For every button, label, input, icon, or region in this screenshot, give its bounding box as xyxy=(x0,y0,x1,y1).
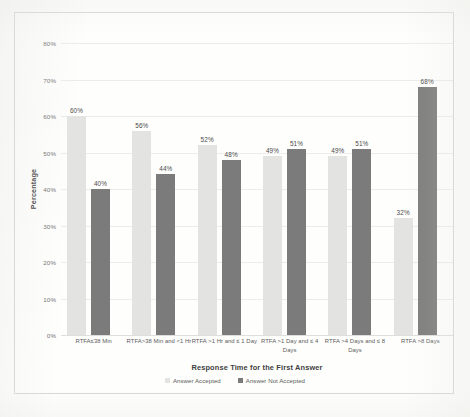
bar-answer-not-accepted[interactable]: 44% xyxy=(156,174,175,335)
bar-answer-not-accepted[interactable]: 68% xyxy=(418,87,437,335)
bar-group: 32%68% xyxy=(388,43,453,335)
y-axis-tick-label: 40% xyxy=(43,186,56,193)
bar-value-label: 68% xyxy=(421,78,434,85)
bar-value-label: 48% xyxy=(225,151,238,158)
legend-item[interactable]: Answer Not Accepted xyxy=(238,377,305,384)
bar-value-label: 49% xyxy=(331,147,344,154)
legend-item[interactable]: Answer Accepted xyxy=(165,377,221,384)
legend-swatch-icon xyxy=(165,378,170,383)
chart-figure: Percentage 80%70%60%50%40%30%20%10%0% 60… xyxy=(0,0,470,417)
bar-answer-accepted[interactable]: 32% xyxy=(394,218,413,335)
bar-answer-not-accepted[interactable]: 48% xyxy=(222,160,241,335)
bar-group: 60%40% xyxy=(61,43,126,335)
y-axis-tick-label: 30% xyxy=(43,222,56,229)
y-axis-tick-label: 60% xyxy=(43,113,56,120)
x-axis-tick-labels: RTFA≤38 MinRTFA>38 Min and <1 HrRTFA >1 … xyxy=(61,337,453,363)
x-axis-title: Response Time for the First Answer xyxy=(61,363,453,372)
x-axis-tick-label: RTFA >1 Day and ≤ 4 Days xyxy=(257,337,322,354)
chart-legend: Answer AcceptedAnswer Not Accepted xyxy=(15,377,455,384)
bar-group: 52%48% xyxy=(192,43,257,335)
gridline xyxy=(61,335,453,336)
x-axis-tick-label: RTFA >8 Days xyxy=(388,337,453,346)
chart-plot-frame: Percentage 80%70%60%50%40%30%20%10%0% 60… xyxy=(14,12,454,394)
bar-value-label: 51% xyxy=(290,140,303,147)
legend-label: Answer Not Accepted xyxy=(246,377,305,384)
bars-layer: 60%40%56%44%52%48%49%51%49%51%32%68% xyxy=(61,43,453,335)
bar-group: 49%51% xyxy=(257,43,322,335)
bar-value-label: 60% xyxy=(70,107,83,114)
bar-group: 49%51% xyxy=(322,43,387,335)
bar-answer-accepted[interactable]: 49% xyxy=(328,156,347,335)
bar-value-label: 49% xyxy=(266,147,279,154)
bar-answer-not-accepted[interactable]: 40% xyxy=(91,189,110,335)
y-axis-title: Percentage xyxy=(29,169,38,209)
y-axis-tick-label: 0% xyxy=(47,332,56,339)
bar-value-label: 40% xyxy=(94,180,107,187)
x-axis-tick-label: RTFA>38 Min and <1 Hr xyxy=(126,337,191,346)
bar-value-label: 32% xyxy=(397,209,410,216)
bar-answer-accepted[interactable]: 60% xyxy=(67,116,86,335)
bar-value-label: 52% xyxy=(201,136,214,143)
x-axis-tick-label: RTFA≤38 Min xyxy=(61,337,126,346)
x-axis-tick-label: RTFA >1 Hr and ≤ 1 Day xyxy=(192,337,257,346)
y-axis-tick-label: 50% xyxy=(43,149,56,156)
y-axis-tick-label: 10% xyxy=(43,295,56,302)
x-axis-tick-label: RTFA >4 Days and ≤ 8 Days xyxy=(322,337,387,354)
bar-value-label: 56% xyxy=(135,122,148,129)
bar-group: 56%44% xyxy=(126,43,191,335)
bar-answer-not-accepted[interactable]: 51% xyxy=(287,149,306,335)
bar-answer-accepted[interactable]: 52% xyxy=(198,145,217,335)
bar-answer-not-accepted[interactable]: 51% xyxy=(352,149,371,335)
legend-swatch-icon xyxy=(238,378,243,383)
legend-label: Answer Accepted xyxy=(173,377,221,384)
y-axis-tick-label: 80% xyxy=(43,40,56,47)
y-axis-tick-label: 70% xyxy=(43,76,56,83)
bar-answer-accepted[interactable]: 56% xyxy=(132,131,151,335)
bar-value-label: 44% xyxy=(159,165,172,172)
bar-answer-accepted[interactable]: 49% xyxy=(263,156,282,335)
bar-value-label: 51% xyxy=(355,140,368,147)
y-axis-tick-label: 20% xyxy=(43,259,56,266)
plot-area: 80%70%60%50%40%30%20%10%0% 60%40%56%44%5… xyxy=(61,43,453,335)
